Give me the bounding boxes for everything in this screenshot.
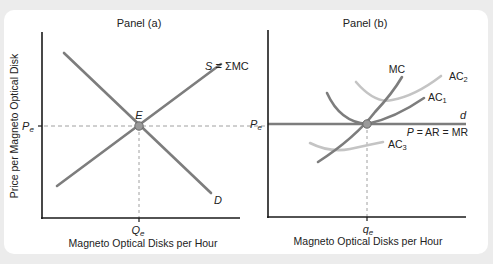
panel-a: Panel (a) Price per Magneto Optical Disk… (8, 17, 268, 249)
demand-label: D (214, 194, 222, 206)
qe-label: Qe (131, 224, 145, 238)
ac3-curve (310, 142, 383, 150)
panel-b-title: Panel (b) (343, 17, 388, 29)
pe-label: Pe (22, 120, 34, 134)
equilibrium-label: E (135, 109, 143, 121)
price-ar-mr-label: P = AR = MR (407, 126, 469, 138)
panel-a-y-axis-label: Price per Magneto Optical Disk (8, 53, 20, 198)
firm-equilibrium-point (363, 120, 371, 128)
panel-a-x-axis-label: Magneto Optical Disks per Hour (69, 237, 218, 249)
panel-a-title: Panel (a) (117, 17, 162, 29)
pe-label-b: Pe (250, 118, 262, 132)
panel-b-x-axis-label: Magneto Optical Disks per Hour (294, 235, 443, 247)
ac1-label: AC1 (428, 91, 447, 105)
mc-label: MC (389, 63, 406, 75)
d-label: d (460, 109, 467, 121)
panel-b: Panel (b) Pe qe MC AC2 AC1 AC3 d P = AR … (250, 17, 468, 247)
ac3-label: AC3 (388, 138, 407, 152)
supply-label: S = ΣMC (205, 60, 249, 72)
equilibrium-point (135, 122, 143, 130)
figure-canvas: Panel (a) Price per Magneto Optical Disk… (0, 0, 493, 264)
ac2-label: AC2 (449, 70, 468, 84)
